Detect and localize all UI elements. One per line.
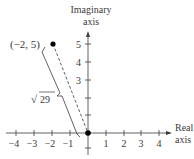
x-tick-label: −4: [9, 138, 20, 149]
x-axis-title-line2: axis: [175, 134, 191, 145]
point-label: (−2, 5): [10, 38, 40, 51]
y-tick-label: 4: [76, 57, 81, 68]
x-tick-label: 1: [104, 138, 109, 149]
y-axis-title-line2: axis: [83, 16, 99, 27]
x-axis-title-line1: Real: [175, 122, 194, 133]
complex-plane-figure: −4 −3 −2 −1 1 2 3 4 3 4 5 Imaginary axis…: [0, 0, 194, 159]
sqrt-symbol-icon: √: [31, 93, 38, 105]
x-axis-arrow-icon: [166, 131, 172, 135]
y-axis-title-line1: Imaginary: [70, 4, 111, 15]
x-tick-label: −2: [45, 138, 56, 149]
x-tick-label: 4: [157, 138, 162, 149]
x-tick-label: 3: [139, 138, 144, 149]
point-neg2-5: [50, 41, 55, 46]
x-tick-label: −3: [27, 138, 38, 149]
y-tick-label: 5: [76, 39, 81, 50]
x-tick-label: 2: [122, 138, 127, 149]
distance-label: √ 29: [31, 92, 55, 105]
y-axis-arrow-icon: [86, 31, 90, 37]
x-tick-label: −1: [63, 138, 74, 149]
point-origin: [85, 130, 91, 136]
y-tick-label: 3: [76, 75, 81, 86]
distance-value: 29: [40, 94, 50, 105]
